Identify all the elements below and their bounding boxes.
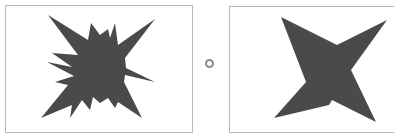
separator-circle-icon xyxy=(205,59,214,68)
simple-star-shape xyxy=(274,17,387,122)
jagged-star-shape xyxy=(41,15,155,118)
